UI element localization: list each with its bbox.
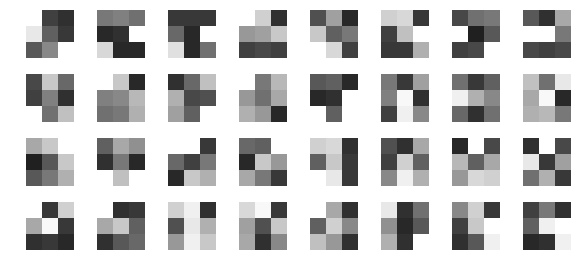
patch-cell	[468, 42, 484, 58]
patch-cell	[271, 106, 287, 122]
patch-cell	[239, 234, 255, 250]
patch-cell	[97, 74, 113, 90]
patch-cell	[484, 202, 500, 218]
patch-cell	[200, 74, 216, 90]
patch-cell	[255, 10, 271, 26]
patch-tile	[381, 202, 429, 250]
patch-cell	[342, 234, 358, 250]
patch-cell	[42, 74, 58, 90]
patch-cell	[129, 138, 145, 154]
patch-cell	[310, 154, 326, 170]
patch-cell	[271, 26, 287, 42]
patch-cell	[113, 74, 129, 90]
patch-cell	[129, 26, 145, 42]
patch-cell	[523, 106, 539, 122]
patch-cell	[200, 26, 216, 42]
patch-cell	[26, 106, 42, 122]
patch-cell	[523, 74, 539, 90]
patch-cell	[184, 202, 200, 218]
patch-cell	[539, 42, 555, 58]
patch-tile	[310, 10, 358, 58]
patch-tile	[310, 74, 358, 122]
patch-cell	[255, 202, 271, 218]
patch-cell	[184, 170, 200, 186]
patch-cell	[184, 90, 200, 106]
patch-cell	[255, 218, 271, 234]
patch-cell	[255, 42, 271, 58]
patch-cell	[468, 26, 484, 42]
patch-cell	[26, 202, 42, 218]
patch-cell	[129, 170, 145, 186]
patch-cell	[97, 202, 113, 218]
patch-cell	[310, 90, 326, 106]
patch-tile	[310, 202, 358, 250]
patch-cell	[539, 26, 555, 42]
patch-cell	[326, 170, 342, 186]
patch-cell	[381, 138, 397, 154]
patch-tile	[26, 202, 74, 250]
patch-cell	[397, 170, 413, 186]
patch-cell	[397, 218, 413, 234]
patch-cell	[26, 74, 42, 90]
patch-cell	[255, 234, 271, 250]
patch-cell	[413, 202, 429, 218]
patch-cell	[555, 90, 571, 106]
patch-cell	[200, 106, 216, 122]
patch-cell	[42, 10, 58, 26]
patch-cell	[484, 90, 500, 106]
patch-tile	[523, 10, 571, 58]
patch-cell	[523, 26, 539, 42]
patch-cell	[200, 42, 216, 58]
patch-cell	[468, 154, 484, 170]
patch-cell	[271, 218, 287, 234]
patch-tile	[239, 138, 287, 186]
patch-cell	[58, 218, 74, 234]
patch-cell	[381, 154, 397, 170]
patch-cell	[239, 10, 255, 26]
patch-cell	[452, 106, 468, 122]
patch-cell	[168, 10, 184, 26]
patch-cell	[97, 26, 113, 42]
patch-cell	[484, 10, 500, 26]
patch-tile	[381, 138, 429, 186]
patch-cell	[310, 202, 326, 218]
patch-cell	[397, 10, 413, 26]
patch-cell	[555, 26, 571, 42]
patch-cell	[381, 202, 397, 218]
patch-cell	[58, 26, 74, 42]
patch-cell	[484, 218, 500, 234]
patch-cell	[381, 10, 397, 26]
patch-cell	[539, 106, 555, 122]
patch-cell	[239, 154, 255, 170]
patch-cell	[26, 10, 42, 26]
patch-cell	[342, 138, 358, 154]
patch-cell	[326, 10, 342, 26]
patch-cell	[184, 74, 200, 90]
patch-cell	[239, 90, 255, 106]
patch-cell	[97, 90, 113, 106]
patch-cell	[271, 154, 287, 170]
patch-cell	[129, 90, 145, 106]
patch-cell	[239, 218, 255, 234]
patch-cell	[413, 42, 429, 58]
patch-cell	[97, 42, 113, 58]
patch-cell	[42, 218, 58, 234]
patch-cell	[397, 42, 413, 58]
patch-cell	[200, 170, 216, 186]
patch-tile	[97, 74, 145, 122]
patch-cell	[452, 42, 468, 58]
patch-cell	[397, 234, 413, 250]
patch-cell	[26, 90, 42, 106]
patch-cell	[168, 218, 184, 234]
patch-cell	[397, 26, 413, 42]
patch-cell	[468, 10, 484, 26]
patch-cell	[200, 10, 216, 26]
patch-cell	[168, 154, 184, 170]
patch-cell	[26, 170, 42, 186]
patch-cell	[452, 90, 468, 106]
patch-tile	[168, 74, 216, 122]
patch-grid-figure	[0, 0, 578, 258]
patch-cell	[326, 42, 342, 58]
patch-cell	[381, 234, 397, 250]
patch-cell	[58, 170, 74, 186]
